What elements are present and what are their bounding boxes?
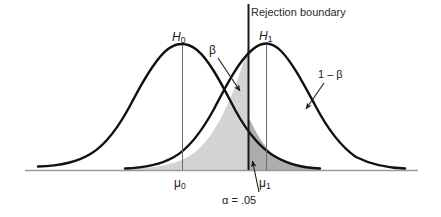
distribution-plot <box>0 0 441 217</box>
beta-region <box>125 48 248 170</box>
mu0-label-subscript: 0 <box>181 181 186 191</box>
h1-label: H1 <box>259 30 272 44</box>
mu0-label: μ0 <box>174 177 186 191</box>
power-label: 1 – β <box>318 69 343 80</box>
h0-curve <box>38 44 320 169</box>
hypothesis-test-figure: Rejection boundary H0 H1 β 1 – β μ0 μ1 α… <box>0 0 441 217</box>
h0-label-subscript: 0 <box>181 35 186 45</box>
h0-label: H0 <box>172 31 185 45</box>
mu1-label-subscript: 1 <box>266 181 271 191</box>
beta-label: β <box>209 44 216 56</box>
h1-label-text: H <box>259 29 268 43</box>
h0-label-text: H <box>172 30 181 44</box>
mu1-label: μ1 <box>259 177 271 191</box>
mu0-label-text: μ <box>174 176 181 190</box>
rejection-boundary-label: Rejection boundary <box>251 7 346 18</box>
h1-label-subscript: 1 <box>268 34 273 44</box>
mu1-label-text: μ <box>259 176 266 190</box>
alpha-label: α = .05 <box>222 195 256 206</box>
